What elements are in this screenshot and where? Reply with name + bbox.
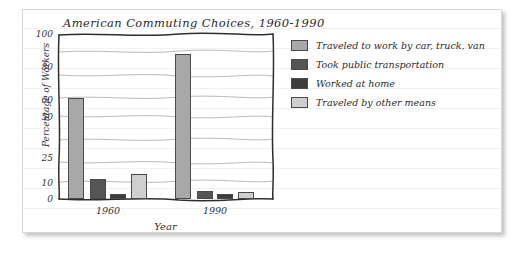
bar-1990-transit [197,191,213,199]
plot-area: Percentage of Workers 100 80 60 50 25 10… [58,34,273,199]
y-tick-25: 25 [42,153,53,163]
legend-label-home: Worked at home [316,78,395,89]
bar-1990-car [175,54,191,199]
legend-label-other: Traveled by other means [316,97,436,108]
legend-item-other: Traveled by other means [291,93,485,112]
legend-label-car: Traveled to work by car, truck, van [316,40,485,51]
screenshot-root: American Commuting Choices, 1960-1990 [0,0,525,257]
y-tick-80: 80 [42,62,53,72]
chart-legend: Traveled to work by car, truck, van Took… [291,36,485,112]
y-tick-50: 50 [42,112,53,122]
bar-1990-home [217,194,233,199]
y-tick-10: 10 [42,178,53,188]
y-tick-0: 0 [47,194,53,204]
legend-swatch-car [291,40,308,51]
bar-1990-other [238,192,254,199]
legend-label-transit: Took public transportation [316,59,444,70]
y-tick-60: 60 [42,95,53,105]
legend-item-home: Worked at home [291,74,485,93]
chart-title: American Commuting Choices, 1960-1990 [63,16,325,30]
legend-item-transit: Took public transportation [291,55,485,74]
bar-group-1990 [58,34,273,199]
legend-swatch-home [291,78,308,89]
y-tick-100: 100 [36,29,53,39]
chart-card: American Commuting Choices, 1960-1990 [22,9,502,233]
legend-item-car: Traveled to work by car, truck, van [291,36,485,55]
x-tick-1990: 1990 [203,205,227,216]
x-tick-1960: 1960 [96,205,120,216]
x-axis-label: Year [154,221,176,232]
legend-swatch-transit [291,59,308,70]
legend-swatch-other [291,97,308,108]
